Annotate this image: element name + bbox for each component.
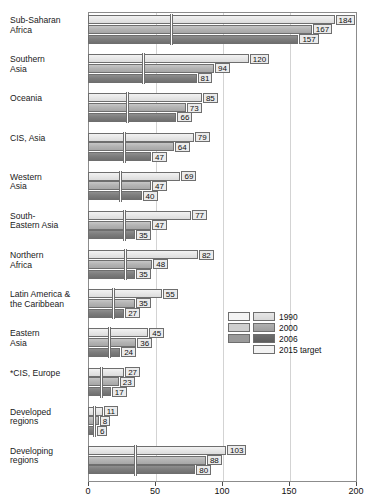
bar-value-label: 40 <box>143 191 158 201</box>
bar-row: 79 <box>88 133 369 142</box>
bar-value-label: 35 <box>136 269 151 279</box>
bar-2006[interactable] <box>88 348 120 357</box>
target-2015-marker <box>112 288 115 319</box>
bar-2000[interactable] <box>88 103 186 112</box>
bar-row: 23 <box>88 377 369 386</box>
bar-group: 1038880 <box>0 446 369 475</box>
bar-2006[interactable] <box>88 152 151 161</box>
bar-2006[interactable] <box>88 113 176 122</box>
bar-2000[interactable] <box>88 377 119 386</box>
chart-container: Sub-Saharan AfricaSouthern AsiaOceaniaCI… <box>0 0 369 503</box>
bar-row: 47 <box>88 221 369 230</box>
bar-group: 272317 <box>0 368 369 397</box>
bar-row: 64 <box>88 142 369 151</box>
target-2015-marker <box>134 445 137 476</box>
bar-value-label: 73 <box>187 103 202 113</box>
bar-row: 82 <box>88 250 369 259</box>
bar-row: 73 <box>88 103 369 112</box>
bar-2000[interactable] <box>88 25 312 34</box>
legend-label-1990: 1990 <box>279 312 298 322</box>
bar-1990[interactable] <box>88 446 226 455</box>
bar-group: 694740 <box>0 172 369 201</box>
target-2015-marker <box>123 210 126 241</box>
bar-1990[interactable] <box>88 93 202 102</box>
bar-2006[interactable] <box>88 270 135 279</box>
bar-value-label: 23 <box>120 377 135 387</box>
legend-swatch-2000-a <box>228 323 250 332</box>
bar-row: 11 <box>88 407 369 416</box>
bar-value-label: 48 <box>153 259 168 269</box>
legend-label-2006: 2006 <box>279 334 298 344</box>
bar-row: 81 <box>88 74 369 83</box>
bar-1990[interactable] <box>88 250 198 259</box>
legend-label-2000: 2000 <box>279 323 298 333</box>
bar-row: 167 <box>88 25 369 34</box>
target-2015-marker <box>123 132 126 163</box>
bar-row: 157 <box>88 35 369 44</box>
bar-value-label: 36 <box>137 338 152 348</box>
bar-1990[interactable] <box>88 211 191 220</box>
legend-item-1990: 1990 <box>228 312 334 322</box>
bar-value-label: 47 <box>152 152 167 162</box>
bar-group: 824835 <box>0 250 369 279</box>
bar-value-label: 88 <box>207 455 222 465</box>
bar-row: 120 <box>88 54 369 63</box>
target-2015-marker <box>170 14 173 45</box>
bar-1990[interactable] <box>88 133 194 142</box>
bar-row: 184 <box>88 15 369 24</box>
bar-value-label: 47 <box>152 220 167 230</box>
bar-1990[interactable] <box>88 328 148 337</box>
legend-label-2015-target: 2015 target <box>279 345 321 355</box>
legend-item-2006: 2006 <box>228 334 334 344</box>
bar-value-label: 35 <box>136 298 151 308</box>
bar-2000[interactable] <box>88 260 152 269</box>
bar-group: 1209481 <box>0 54 369 83</box>
bar-row: 27 <box>88 368 369 377</box>
bar-value-label: 94 <box>215 63 230 73</box>
bar-2006[interactable] <box>88 309 124 318</box>
legend-swatch-1990-a <box>228 312 250 321</box>
bar-row: 55 <box>88 289 369 298</box>
bar-2000[interactable] <box>88 221 151 230</box>
bar-row: 47 <box>88 181 369 190</box>
chart-legend: 1990 2000 2006 2015 target <box>228 312 334 356</box>
x-axis-tick-label: 200 <box>348 486 363 496</box>
bar-value-label: 80 <box>196 465 211 475</box>
bar-2000[interactable] <box>88 142 174 151</box>
legend-swatch-2015-target <box>253 345 275 354</box>
target-2015-marker <box>100 367 103 398</box>
bar-1990[interactable] <box>88 172 180 181</box>
bar-2000[interactable] <box>88 456 206 465</box>
bar-group: 774735 <box>0 211 369 240</box>
bar-2006[interactable] <box>88 465 195 474</box>
bar-2000[interactable] <box>88 64 214 73</box>
x-axis-tick-label: 100 <box>214 486 229 496</box>
legend-swatch-2006-b <box>253 334 275 343</box>
bar-1990[interactable] <box>88 15 335 24</box>
bar-row: 8 <box>88 416 369 425</box>
bar-value-label: 55 <box>163 289 178 299</box>
bar-row: 35 <box>88 230 369 239</box>
bar-2006[interactable] <box>88 191 142 200</box>
bar-row: 88 <box>88 456 369 465</box>
bar-row: 47 <box>88 152 369 161</box>
bar-2000[interactable] <box>88 338 136 347</box>
bar-group: 857366 <box>0 93 369 122</box>
legend-swatch-2000-b <box>253 323 275 332</box>
bar-value-label: 66 <box>177 112 192 122</box>
bar-2006[interactable] <box>88 230 135 239</box>
bar-1990[interactable] <box>88 368 124 377</box>
bar-value-label: 24 <box>121 347 136 357</box>
bar-value-label: 47 <box>152 181 167 191</box>
bar-row: 6 <box>88 426 369 435</box>
bar-value-label: 69 <box>181 171 196 181</box>
bar-value-label: 35 <box>136 230 151 240</box>
bar-1990[interactable] <box>88 54 249 63</box>
bar-2006[interactable] <box>88 35 298 44</box>
legend-swatch-1990-b <box>253 312 275 321</box>
bar-row: 77 <box>88 211 369 220</box>
target-2015-marker <box>119 171 122 202</box>
bar-1990[interactable] <box>88 289 162 298</box>
bar-value-label: 81 <box>198 73 213 83</box>
bar-value-label: 77 <box>192 210 207 220</box>
